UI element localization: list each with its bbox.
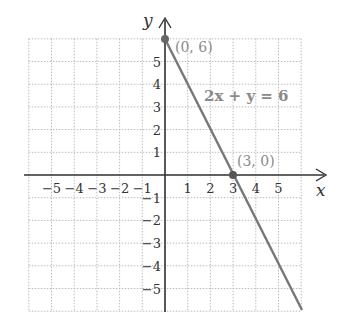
x-tick-label: −3 xyxy=(87,181,106,196)
y-tick-label: 1 xyxy=(153,145,161,160)
x-tick-label: 3 xyxy=(229,181,237,196)
x-tick-label: 5 xyxy=(274,181,282,196)
y-tick-label: −1 xyxy=(142,191,161,206)
coordinate-plane: −5−4−3−2−11234554321−1−2−3−4−5 x y (0, 6… xyxy=(0,0,338,323)
point-label-3-0: (3, 0) xyxy=(237,153,275,169)
y-tick-label: 2 xyxy=(153,123,161,138)
y-tick-label: −2 xyxy=(142,213,161,228)
x-tick-label: 1 xyxy=(184,181,192,196)
x-tick-label: −4 xyxy=(65,181,84,196)
y-axis-label: y xyxy=(142,10,153,30)
y-tick-label: −3 xyxy=(142,236,161,251)
point-0-6 xyxy=(161,35,169,43)
equation-label: 2x + y = 6 xyxy=(204,87,289,105)
x-tick-label: 4 xyxy=(252,181,260,196)
y-tick-label: −5 xyxy=(142,282,161,297)
x-tick-label: −2 xyxy=(110,181,129,196)
x-tick-label: 2 xyxy=(206,181,214,196)
y-tick-label: −4 xyxy=(142,259,161,274)
y-tick-label: 3 xyxy=(153,100,161,115)
y-tick-label: 5 xyxy=(153,55,161,70)
point-3-0 xyxy=(229,171,237,179)
x-axis-label: x xyxy=(316,180,326,200)
point-label-0-6: (0, 6) xyxy=(175,39,213,55)
y-tick-label: 4 xyxy=(153,77,161,92)
x-tick-label: −5 xyxy=(42,181,61,196)
